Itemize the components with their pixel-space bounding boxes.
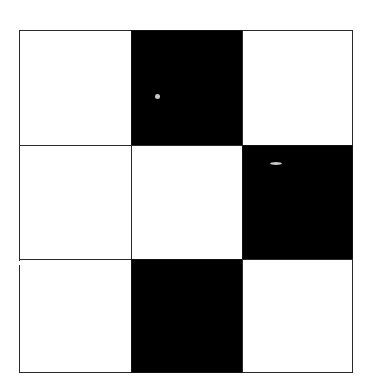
border-gap [18,261,21,265]
scan-artifact-1 [155,94,160,99]
grid-cell-r2-c2-white [131,145,243,260]
grid-cell-r3-c1-white [19,259,132,373]
grid-cell-r3-c3-white [242,259,353,373]
checker-grid [19,30,352,372]
grid-cell-r1-c3-white [242,30,353,146]
grid-cell-r2-c1-white [19,145,132,260]
grid-cell-r2-c3-black [242,145,353,260]
grid-cell-r1-c1-white [19,30,132,146]
grid-cell-r3-c2-black [131,259,243,373]
grid-cell-r1-c2-black [131,30,243,146]
scan-artifact-2 [270,162,282,165]
